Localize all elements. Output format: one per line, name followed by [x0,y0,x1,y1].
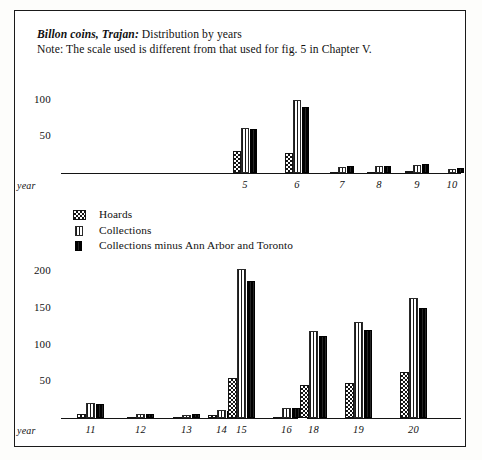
bar [173,417,182,419]
bar [282,408,291,418]
bar [457,168,465,173]
legend-label: Collections [99,224,152,236]
y-axis-tick-label: 200 [17,264,51,276]
x-axis-tick-label: 10 [435,179,469,190]
bar [136,414,145,418]
x-axis-title: year [17,425,36,436]
bar [309,331,318,418]
x-axis-tick-label: 8 [362,179,396,190]
chart-upper-panel: 50100year5678910 [15,11,467,201]
bar [422,164,430,173]
x-axis-title: year [17,180,36,191]
x-axis-tick-label: 19 [342,424,376,435]
bar [347,166,355,173]
bar [285,153,293,173]
bar [146,414,155,418]
x-axis-line [307,418,461,419]
x-axis-tick-label: 20 [397,424,431,435]
bar [192,414,201,418]
bar [319,336,328,418]
bar [127,417,136,419]
bar [250,129,258,173]
bar [367,172,375,174]
bar [354,322,363,418]
bar [409,298,418,418]
legend-label: Hoards [99,208,132,220]
bar [405,171,413,173]
x-axis-tick-label: 7 [325,179,359,190]
figure-page: Billon coins, Trajan: Distribution by ye… [0,0,482,460]
y-axis-tick-label: 100 [17,338,51,350]
bar [182,415,191,418]
x-axis-tick-label: 11 [74,424,108,435]
bar [384,166,392,173]
bar [302,107,310,173]
y-axis-tick-label: 50 [17,374,51,386]
x-axis-tick-label: 9 [400,179,434,190]
y-axis-tick-label: 100 [17,93,51,105]
bar [208,415,217,418]
bar [345,383,354,418]
y-axis-tick-label: 150 [17,301,51,313]
x-axis-line [61,173,461,174]
bar [400,372,409,418]
bar [241,128,249,173]
bar [237,269,246,418]
bar [86,403,95,418]
x-axis-tick-label: 5 [228,179,262,190]
bar [77,414,86,418]
y-axis-tick-label: 50 [17,129,51,141]
bar [338,167,346,173]
bar [364,330,373,418]
chart-lower-panel: 50100150200year111213141516181920 [15,243,467,443]
bar [330,172,338,174]
bar [300,385,309,418]
x-axis-tick-label: 6 [280,179,314,190]
bar [293,100,301,173]
bar [228,378,237,418]
bar [413,165,421,173]
legend-swatch-2 [75,226,83,236]
bar [419,308,428,418]
bar [375,166,383,173]
x-axis-tick-label: 18 [297,424,331,435]
x-axis-tick-label: 15 [225,424,259,435]
figure-frame: Billon coins, Trajan: Distribution by ye… [14,10,466,447]
legend-swatch-1 [73,210,86,220]
bar [292,408,301,418]
x-axis-tick-label: 12 [124,424,158,435]
bar [233,151,241,173]
bar [217,410,226,418]
x-axis-tick-label: 13 [170,424,204,435]
bar [448,169,456,173]
bar [96,404,105,418]
bar [247,281,256,418]
bar [273,417,282,419]
